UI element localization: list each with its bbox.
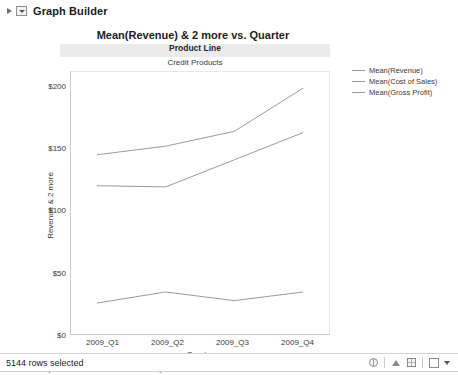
- status-bar: 5144 rows selected: [0, 353, 458, 372]
- rows-selected-label: 5144 rows selected: [0, 358, 368, 368]
- legend-swatch-icon: [352, 70, 365, 71]
- graph-area: Mean(Revenue) & 2 more vs. Quarter Produ…: [0, 22, 458, 342]
- y-tick-label: $50: [30, 268, 66, 277]
- dropdown-box-icon[interactable]: [16, 6, 27, 16]
- outline-title: Graph Builder: [33, 5, 108, 17]
- checkbox-icon[interactable]: [428, 357, 439, 368]
- chart-title: Mean(Revenue) & 2 more vs. Quarter: [55, 29, 331, 41]
- grid-icon[interactable]: [406, 357, 417, 368]
- line-chart-svg: [71, 72, 329, 334]
- y-tick-label: $100: [30, 206, 66, 215]
- outline-header: Graph Builder: [0, 0, 458, 22]
- plot-frame[interactable]: [70, 71, 330, 335]
- caret-down-glyph: [19, 10, 25, 13]
- legend-item-3[interactable]: Mean(Gross Profit): [352, 88, 456, 97]
- group-value-label: Credit Products: [60, 58, 330, 67]
- status-icon-group: [368, 357, 458, 368]
- graph-builder-window: Graph Builder Mean(Revenue) & 2 more vs.…: [0, 0, 458, 375]
- group-header-label: Product Line: [60, 43, 330, 53]
- legend-label: Mean(Gross Profit): [369, 88, 432, 97]
- legend-item-1[interactable]: Mean(Revenue): [352, 66, 456, 75]
- legend-item-2[interactable]: Mean(Cost of Sales): [352, 77, 456, 86]
- y-axis: Revenue & 2 more $0$50$100$150$200: [28, 71, 66, 335]
- status-divider-2: [422, 357, 423, 368]
- y-tick-label: $0: [30, 331, 66, 340]
- legend-swatch-icon: [352, 92, 365, 93]
- legend-swatch-icon: [352, 81, 365, 82]
- legend-label: Mean(Cost of Sales): [369, 77, 437, 86]
- series-line-3[interactable]: [97, 292, 303, 303]
- status-divider: [384, 357, 385, 368]
- y-tick-label: $150: [30, 144, 66, 153]
- legend-label: Mean(Revenue): [369, 66, 423, 75]
- globe-icon[interactable]: [368, 357, 379, 368]
- y-tick-label: $200: [30, 81, 66, 90]
- caret-down-icon[interactable]: [444, 361, 450, 365]
- up-arrow-icon[interactable]: [390, 357, 401, 368]
- triangle-right-icon[interactable]: [7, 8, 12, 14]
- chart-legend: Mean(Revenue)Mean(Cost of Sales)Mean(Gro…: [352, 66, 456, 99]
- series-line-2[interactable]: [97, 133, 303, 187]
